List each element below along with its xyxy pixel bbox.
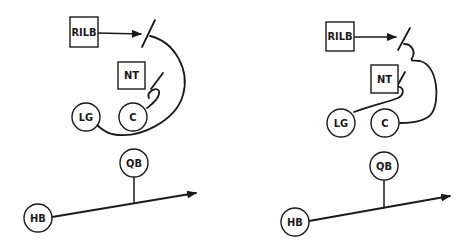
- player-lg: LG: [72, 103, 100, 131]
- block-mark: [398, 28, 410, 50]
- right-diagram: RILB NT LG C QB HB: [281, 22, 450, 236]
- play-diagrams: RILB NT LG C QB HB: [0, 0, 467, 248]
- rilb-route-arrow: [98, 33, 141, 34]
- player-label: NT: [124, 69, 139, 82]
- player-label: RILB: [327, 30, 352, 43]
- player-label: LG: [79, 111, 93, 124]
- player-rilb: RILB: [326, 22, 354, 51]
- player-c: C: [119, 103, 147, 131]
- c-pull-route: [400, 44, 436, 123]
- player-label: QB: [376, 160, 392, 173]
- player-lg: LG: [327, 109, 355, 137]
- hb-run-arrow: [309, 196, 450, 221]
- player-label: HB: [30, 212, 46, 225]
- player-qb: QB: [120, 149, 148, 177]
- left-diagram: RILB NT LG C QB HB: [24, 17, 196, 232]
- player-nt: NT: [371, 65, 398, 93]
- player-label: QB: [126, 157, 142, 170]
- c-block-mark: [151, 73, 163, 89]
- player-label: RILB: [71, 26, 96, 39]
- c-block-route: [147, 89, 159, 108]
- player-label: C: [129, 111, 136, 124]
- player-rilb: RILB: [70, 17, 98, 47]
- player-hb: HB: [24, 204, 52, 232]
- player-qb: QB: [370, 152, 398, 180]
- player-hb: HB: [281, 208, 309, 236]
- player-label: NT: [377, 73, 392, 86]
- hb-run-arrow: [52, 193, 196, 217]
- player-c: C: [371, 109, 399, 137]
- player-label: C: [381, 117, 388, 130]
- block-mark: [142, 20, 155, 47]
- player-label: LG: [334, 117, 348, 130]
- player-nt: NT: [118, 62, 145, 89]
- player-label: HB: [287, 216, 303, 229]
